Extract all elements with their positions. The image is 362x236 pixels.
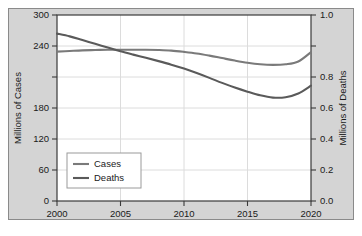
x-axis-ticks xyxy=(57,201,311,206)
left-tick-label: 120 xyxy=(33,133,49,144)
legend-label-cases: Cases xyxy=(94,158,121,169)
right-tick-label: 1.0 xyxy=(320,9,333,20)
left-tick-label: 0 xyxy=(44,195,49,206)
x-axis-tick-labels: 2000 2005 2010 2015 2020 xyxy=(46,208,321,219)
line-chart: 0 60 120 180 240 300 0.0 0.2 0.4 0.6 0.8… xyxy=(0,0,362,236)
left-tick-label: 240 xyxy=(33,40,49,51)
x-tick-label: 2015 xyxy=(237,208,258,219)
chart-legend: Cases Deaths xyxy=(67,153,141,188)
left-axis-title: Millions of Cases xyxy=(12,72,23,144)
x-tick-label: 2005 xyxy=(110,208,131,219)
right-axis-ticks xyxy=(311,15,316,201)
right-tick-label: 0.2 xyxy=(320,164,333,175)
x-tick-label: 2000 xyxy=(46,208,67,219)
left-axis-ticks xyxy=(52,15,57,201)
left-tick-label: 300 xyxy=(33,9,49,20)
legend-label-deaths: Deaths xyxy=(94,172,124,183)
x-tick-label: 2020 xyxy=(300,208,321,219)
right-axis-title: Millions of Deaths xyxy=(337,70,348,145)
right-tick-label: 0.0 xyxy=(320,195,333,206)
right-tick-label: 0.4 xyxy=(320,133,333,144)
x-tick-label: 2010 xyxy=(173,208,194,219)
left-tick-label: 180 xyxy=(33,102,49,113)
left-axis-tick-labels: 0 60 120 180 240 300 xyxy=(33,9,49,206)
chart-figure: 0 60 120 180 240 300 0.0 0.2 0.4 0.6 0.8… xyxy=(0,0,362,236)
right-tick-label: 0.6 xyxy=(320,102,333,113)
right-axis-tick-labels: 0.0 0.2 0.4 0.6 0.8 1.0 xyxy=(320,9,333,206)
right-tick-label: 0.8 xyxy=(320,71,333,82)
left-tick-label: 60 xyxy=(38,164,49,175)
